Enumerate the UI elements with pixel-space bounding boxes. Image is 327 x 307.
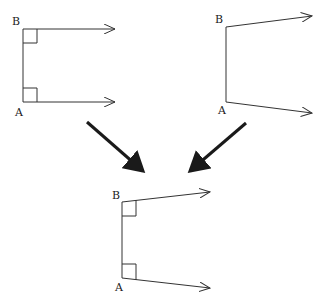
label-a: A <box>14 106 24 119</box>
right-angle-mark-b <box>122 200 136 216</box>
figure-top-left: B A <box>12 15 115 119</box>
ray-from-a <box>226 102 312 113</box>
connector-arrows <box>87 122 246 171</box>
right-angle-mark-a <box>23 88 37 102</box>
right-angle-mark-a <box>122 264 136 280</box>
arrow-left-to-bottom-icon <box>87 122 143 171</box>
diagram-canvas: B A B A B A <box>0 0 327 307</box>
label-b: B <box>215 13 223 26</box>
label-a: A <box>217 104 227 117</box>
label-b: B <box>112 189 120 202</box>
ray-from-b <box>122 192 210 202</box>
label-b: B <box>12 15 20 28</box>
ray-from-a <box>122 278 210 288</box>
label-a: A <box>114 281 124 294</box>
figure-top-right: B A <box>215 13 312 117</box>
right-angle-mark-b <box>23 29 37 43</box>
arrow-right-to-bottom-icon <box>190 123 246 171</box>
ray-from-b <box>226 16 312 27</box>
figure-bottom: B A <box>112 189 210 294</box>
